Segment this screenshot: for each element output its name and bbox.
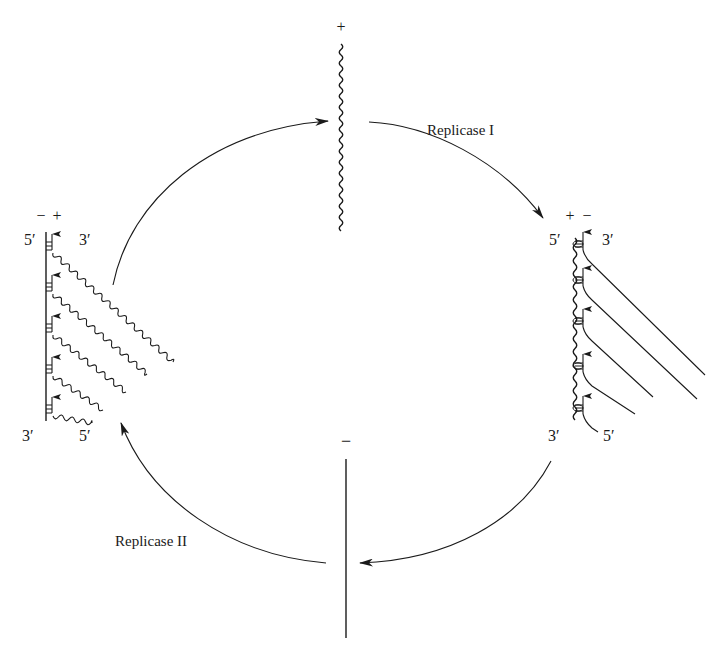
wavy-plus-chain [53, 294, 147, 375]
product-polarity-plus: + [52, 207, 61, 224]
bottom-minus-strand: − [341, 431, 351, 638]
plus-sign: + [336, 18, 345, 35]
growing-chain [46, 234, 174, 362]
wavy-plus-chain [53, 415, 92, 425]
growing-chain [573, 268, 697, 399]
template-polarity-plus: + [565, 207, 574, 224]
template-polarity-minus: − [36, 207, 45, 224]
growing-minus-chains [573, 232, 705, 432]
product-3prime-label: 3′ [79, 231, 91, 248]
growing-chain [46, 275, 147, 375]
straight-minus-chain [583, 372, 635, 414]
straight-minus-chain [583, 250, 705, 375]
left-replicative-complex: − + 5′ 3′ 3′ 5′ [22, 207, 174, 444]
template-3prime-label: 3′ [548, 427, 560, 444]
wavy-plus-chain [53, 376, 103, 411]
wavy-rna-strand [339, 44, 343, 231]
top-plus-strand: + [336, 18, 345, 231]
product-3prime-label: 3′ [602, 231, 614, 248]
product-polarity-minus: − [582, 207, 591, 224]
replication-cycle-diagram: + − Replicase I Replicase II − + 5′ 3′ 3… [0, 0, 723, 656]
product-5prime-label: 5′ [603, 427, 615, 444]
straight-minus-chain [583, 414, 598, 432]
replicase-2-label: Replicase II [115, 533, 187, 549]
growing-chain [573, 232, 705, 375]
product-5prime-label: 5′ [79, 427, 91, 444]
wavy-plus-chain [53, 335, 126, 393]
right-replicative-complex: + − 5′ 3′ 3′ 5′ [548, 207, 705, 444]
replicase-1-label: Replicase I [427, 122, 494, 138]
growing-chain [573, 396, 598, 432]
minus-sign: − [341, 431, 351, 451]
arrow-left-to-top [113, 121, 328, 285]
arrow-right-to-bottom [360, 461, 551, 563]
template-3prime-label: 3′ [22, 427, 34, 444]
template-5prime-label: 5′ [24, 231, 36, 248]
growing-chain [573, 309, 653, 397]
wavy-plus-chain [53, 253, 174, 362]
straight-minus-chain [583, 286, 697, 399]
growing-plus-chains [46, 234, 174, 425]
template-5prime-label: 5′ [549, 231, 561, 248]
plus-template-strand [573, 238, 577, 420]
growing-chain [46, 397, 92, 425]
growing-chain [46, 316, 126, 393]
